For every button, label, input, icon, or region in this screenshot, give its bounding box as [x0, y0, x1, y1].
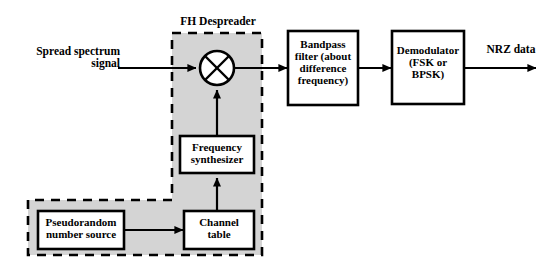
demodulator-block [392, 31, 464, 104]
bandpass-filter-block [288, 31, 358, 105]
diagram-canvas [0, 0, 559, 273]
fh-despreader-diagram: FH Despreader Spread spectrum signal Ban… [0, 0, 559, 273]
prn-source-block [38, 211, 124, 249]
frequency-synthesizer-block [180, 136, 254, 173]
channel-table-block [184, 211, 254, 249]
mixer-multiplier [200, 51, 234, 85]
